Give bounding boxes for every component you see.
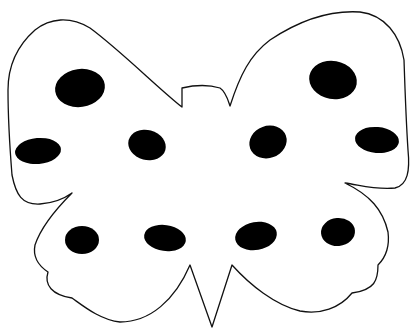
butterfly-svg [0,0,415,331]
butterfly-outline [8,12,409,327]
spot-lower-left-outer [65,226,99,254]
butterfly-drawing [0,0,415,331]
